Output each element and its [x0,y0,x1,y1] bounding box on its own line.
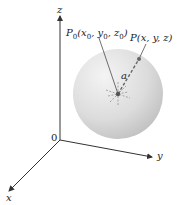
x-axis-label: x [6,193,12,203]
sphere-diagram: z y x 0 P0(x0, y0, z0) P(x, y, z) a [0,0,180,205]
x-axis [9,140,60,191]
y-axis [60,140,152,157]
surface-point [137,57,141,61]
z-axis-label: z [57,5,62,15]
origin-label: 0 [51,133,57,143]
radius-label: a [121,71,127,81]
surface-point-label: P(x, y, z) [130,33,172,43]
y-axis-label: y [157,151,163,161]
center-point-label: P0(x0, y0, z0) [66,28,128,41]
center-point [116,92,120,96]
